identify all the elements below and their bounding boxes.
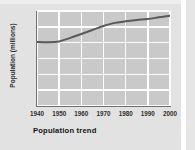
chart-panel: Population (millions) 0102030405060 1940… bbox=[0, 0, 181, 150]
adjacent-panel-sliver bbox=[186, 0, 195, 150]
x-tick-label: 2000 bbox=[157, 110, 183, 117]
screenshot-root: Population (millions) 0102030405060 1940… bbox=[0, 0, 195, 150]
chart-title: Population trend bbox=[33, 126, 97, 135]
population-trend-chart: Population (millions) 0102030405060 1940… bbox=[0, 0, 181, 150]
